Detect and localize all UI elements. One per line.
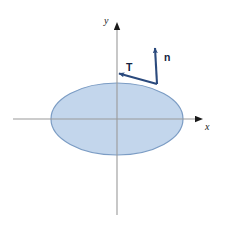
tangent-vector-arrow — [119, 74, 157, 85]
normal-vector: n — [155, 48, 170, 84]
normal-vector-arrow — [155, 48, 157, 84]
x-axis-label: x — [204, 121, 210, 132]
tangent-vector: T — [119, 61, 157, 84]
tangent-vector-label: T — [126, 61, 133, 73]
vector-field-diagram: x y n T — [0, 0, 228, 228]
normal-vector-label: n — [164, 51, 170, 63]
y-axis-label: y — [103, 15, 109, 26]
figure-container: x y n T — [0, 0, 228, 228]
